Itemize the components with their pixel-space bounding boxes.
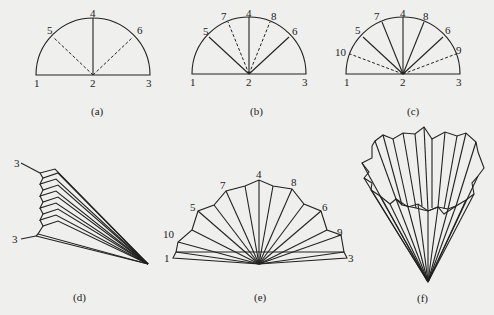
label-3: 3 [146,77,152,89]
label-4: 4 [256,168,262,180]
label-9: 9 [456,44,462,56]
label-1: 1 [164,252,170,264]
panel-e-pleated-fan: 1 3 4 5 6 7 8 9 10 (e) [163,168,354,304]
label-7: 7 [220,179,226,191]
label-5: 5 [203,25,209,37]
label-1: 1 [34,77,40,89]
label-5: 5 [190,201,196,213]
label-2: 2 [90,77,96,89]
label-9: 9 [337,226,343,238]
label-8: 8 [271,10,277,22]
label-7: 7 [221,10,227,22]
label-1: 1 [190,76,196,88]
caption-a: (a) [91,105,104,118]
label-2: 2 [400,76,406,88]
label-2: 2 [246,76,252,88]
label-6: 6 [137,24,143,36]
caption-f: (f) [417,292,428,305]
label-3-top: 3 [14,157,20,169]
label-10: 10 [335,46,347,58]
label-3: 3 [302,76,308,88]
label-7: 7 [374,10,380,22]
label-4: 4 [400,7,406,19]
label-4: 4 [246,7,252,19]
label-5: 5 [47,24,53,36]
caption-e: (e) [254,291,267,304]
label-5: 5 [355,24,361,36]
caption-b: (b) [250,105,263,118]
label-3: 3 [456,76,462,88]
label-6: 6 [292,25,298,37]
panel-b-semicircle: 1 2 3 4 5 6 7 8 (b) [190,7,308,118]
label-4: 4 [90,7,96,19]
label-6: 6 [322,201,328,213]
panel-d-folded-wedge: 3 3 (d) [12,157,148,304]
label-6: 6 [445,24,451,36]
label-8: 8 [423,10,429,22]
label-10: 10 [163,228,175,240]
folding-diagram-figure: 1 2 3 4 5 6 (a) 1 2 3 4 5 6 7 8 (b) 1 2 [0,0,494,315]
label-3-bottom: 3 [12,233,18,245]
caption-c: (c) [407,105,420,118]
label-8: 8 [291,176,297,188]
caption-d: (d) [73,291,86,304]
panel-f-cone-filter: (f) [362,127,484,305]
label-1: 1 [344,76,350,88]
panel-a-semicircle: 1 2 3 4 5 6 (a) [34,7,152,118]
label-3: 3 [348,252,354,264]
panel-c-semicircle: 1 2 3 4 5 6 7 8 9 10 (c) [335,7,462,118]
